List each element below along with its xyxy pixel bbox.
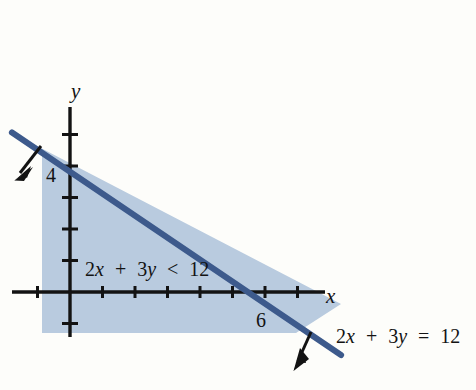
equation-var-y: y	[398, 325, 407, 347]
inequality-coef-1: 2	[85, 258, 95, 280]
equation-var-x: x	[346, 325, 355, 347]
equation-plus: +	[366, 325, 377, 347]
inequality-annotation: 2x + 3y < 12	[85, 259, 209, 279]
y-tick-label-4: 4	[46, 165, 56, 185]
equation-annotation: 2x + 3y = 12	[336, 326, 460, 346]
y-axis-label: y	[71, 81, 80, 102]
inequality-graph-figure: y x 4 6 2x + 3y < 12 2x + 3y = 12	[0, 0, 476, 390]
inequality-var-x: x	[95, 258, 104, 280]
x-axis-label: x	[326, 286, 335, 307]
equation-relation: =	[418, 325, 429, 347]
direction-arrow-upper-left	[14, 146, 41, 181]
equation-constant: 12	[440, 325, 460, 347]
inequality-constant: 12	[189, 258, 209, 280]
inequality-relation: <	[167, 258, 178, 280]
equation-coef-1: 2	[336, 325, 346, 347]
inequality-var-y: y	[147, 258, 156, 280]
inequality-plus: +	[115, 258, 126, 280]
direction-arrow-lower-right	[294, 332, 312, 371]
equation-coef-2: 3	[388, 325, 398, 347]
inequality-coef-2: 3	[137, 258, 147, 280]
x-tick-label-6: 6	[256, 310, 266, 330]
